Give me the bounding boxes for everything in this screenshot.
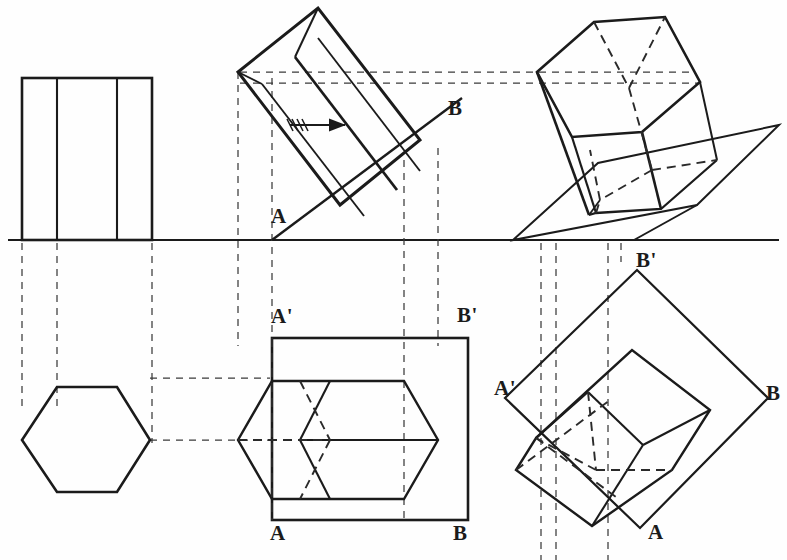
drawing-sheet: A B A' B' A B B' A' A B	[0, 0, 787, 560]
label-elevation-A: A	[271, 206, 287, 227]
label-plan-A-prime: A'	[271, 306, 293, 327]
tilted-prism-edge-1	[262, 84, 364, 216]
rotated-enclosing-rectangle	[505, 270, 768, 528]
pictorial-prism-bottom-front	[589, 160, 717, 215]
tilted-prism-silhouette	[238, 8, 420, 205]
plan-enclosing-rectangle	[272, 338, 468, 520]
pictorial-prism-edge-D	[700, 82, 717, 160]
plan-hexagon-outline	[22, 387, 150, 492]
pictorial-prism-top-face	[537, 17, 700, 137]
upright-prism-outline	[22, 78, 152, 240]
label-pictorial-plan-B: B	[766, 383, 781, 404]
plan-hexagon	[22, 387, 150, 492]
rotated-plan-internal-edge-4	[536, 392, 588, 438]
pictorial-elevation-prism	[513, 17, 779, 240]
technical-drawing-canvas	[0, 0, 787, 560]
rotation-direction-arrow	[287, 119, 345, 131]
tilted-prism-edge-3	[318, 38, 420, 171]
label-plan-B: B	[453, 523, 468, 544]
rotated-plan-prism	[505, 270, 768, 528]
tilted-prism-edge-2	[295, 57, 397, 190]
label-plan-A: A	[270, 523, 286, 544]
inclined-line-AB	[272, 98, 462, 240]
pictorial-inclined-plane	[513, 125, 779, 240]
label-elevation-B: B	[448, 98, 463, 119]
label-pictorial-plan-B-prime: B'	[636, 250, 657, 271]
front-elevation-upright-prism	[22, 78, 152, 240]
plan-tilted-prism-hidden-edges	[238, 338, 330, 520]
label-pictorial-plan-A-prime: A'	[494, 378, 516, 399]
rotated-plan-internal-edge-1	[588, 392, 643, 445]
label-pictorial-plan-A: A	[648, 522, 664, 543]
label-plan-B-prime: B'	[457, 305, 478, 326]
